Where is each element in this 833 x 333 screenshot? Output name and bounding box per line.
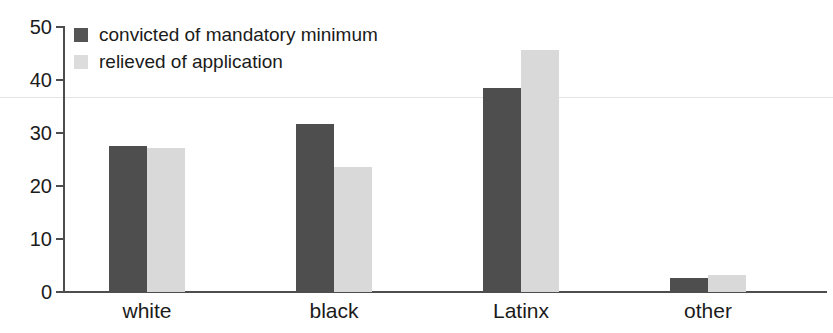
y-tick-mark xyxy=(56,79,63,81)
bar-Latinx-relieved xyxy=(521,50,559,292)
bar-white-relieved xyxy=(147,148,185,292)
legend-item: convicted of mandatory minimum xyxy=(74,21,378,48)
x-axis-label-other: other xyxy=(628,299,788,322)
legend-label: relieved of application xyxy=(99,52,283,71)
x-axis-label-Latinx: Latinx xyxy=(441,299,601,322)
legend-swatch-icon xyxy=(74,55,88,69)
bar-other-convicted xyxy=(670,278,708,292)
y-tick-label: 50 xyxy=(4,17,52,37)
legend-swatch-icon xyxy=(74,28,88,42)
bar-white-convicted xyxy=(109,146,147,292)
bar-other-relieved xyxy=(708,275,746,292)
x-axis-label-black: black xyxy=(254,299,414,322)
x-axis-label-white: white xyxy=(67,299,227,322)
legend-label: convicted of mandatory minimum xyxy=(99,25,378,44)
legend-item: relieved of application xyxy=(74,48,378,75)
y-tick-mark xyxy=(56,132,63,134)
y-tick-mark xyxy=(56,238,63,240)
bar-black-convicted xyxy=(296,124,334,292)
y-tick-label: 0 xyxy=(4,282,52,302)
y-tick-label: 40 xyxy=(4,70,52,90)
bar-chart: 01020304050 whiteblackLatinxother convic… xyxy=(0,0,833,333)
bar-Latinx-convicted xyxy=(483,88,521,292)
chart-legend: convicted of mandatory minimumrelieved o… xyxy=(74,21,378,75)
y-tick-label: 30 xyxy=(4,123,52,143)
y-tick-label: 20 xyxy=(4,176,52,196)
y-tick-mark xyxy=(56,185,63,187)
y-tick-label: 10 xyxy=(4,229,52,249)
bar-black-relieved xyxy=(334,167,372,292)
